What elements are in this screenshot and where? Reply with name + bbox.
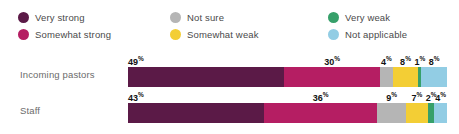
bar-segment xyxy=(421,67,447,87)
legend-item[interactable]: Very weak xyxy=(328,12,442,23)
chart-row-label: Staff xyxy=(20,105,40,116)
bar-area: 49%30%4%8%1%8% xyxy=(128,53,447,89)
bar-segment xyxy=(406,103,428,123)
chart-row-label: Incoming pastors xyxy=(20,69,95,80)
legend-item[interactable]: Not applicable xyxy=(328,29,442,40)
bar-segment xyxy=(380,67,393,87)
chart-row: Incoming pastors49%30%4%8%1%8% xyxy=(0,53,459,89)
bar-segment xyxy=(128,103,264,123)
legend-item[interactable]: Somewhat weak xyxy=(170,29,328,40)
bar-value-labels: 49%30%4%8%1%8% xyxy=(128,53,447,67)
legend-item-label: Not sure xyxy=(187,13,224,23)
bar-segment-value: 7% xyxy=(412,89,423,104)
legend-item-label: Somewhat strong xyxy=(35,30,111,40)
bar-segment xyxy=(264,103,378,123)
legend-dot-icon xyxy=(18,12,29,23)
stacked-bar xyxy=(128,67,447,87)
bar-segment xyxy=(128,67,284,87)
stacked-bar xyxy=(128,103,447,123)
legend-dot-icon xyxy=(170,29,181,40)
chart-legend: Very strongNot sureVery weakSomewhat str… xyxy=(18,9,442,43)
legend-item[interactable]: Somewhat strong xyxy=(18,29,170,40)
bar-segment-value: 8% xyxy=(429,53,440,68)
bar-segment-value: 4% xyxy=(435,89,446,104)
bar-segment-value: 49% xyxy=(128,53,144,68)
legend-dot-icon xyxy=(18,29,29,40)
legend-item[interactable]: Not sure xyxy=(170,12,328,23)
stacked-bar-chart: Incoming pastors49%30%4%8%1%8%Staff43%36… xyxy=(0,53,459,131)
legend-dot-icon xyxy=(170,12,181,23)
bar-segment-value: 4% xyxy=(381,53,392,68)
bar-segment-value: 9% xyxy=(386,89,397,104)
bar-segment-value: 30% xyxy=(324,53,340,68)
bar-segment xyxy=(434,103,447,123)
legend-item-label: Somewhat weak xyxy=(187,30,259,40)
legend-dot-icon xyxy=(328,29,339,40)
bar-segment xyxy=(393,67,419,87)
legend-item[interactable]: Very strong xyxy=(18,12,170,23)
bar-area: 43%36%9%7%2%4% xyxy=(128,89,447,125)
bar-segment-value: 36% xyxy=(313,89,329,104)
legend-item-label: Very strong xyxy=(35,13,85,23)
bar-segment-value: 8% xyxy=(400,53,411,68)
bar-value-labels: 43%36%9%7%2%4% xyxy=(128,89,447,103)
legend-item-label: Very weak xyxy=(345,13,390,23)
bar-segment-value: 1% xyxy=(414,53,425,68)
bar-segment-value: 43% xyxy=(128,89,144,104)
bar-segment xyxy=(284,67,380,87)
legend-dot-icon xyxy=(328,12,339,23)
legend-item-label: Not applicable xyxy=(345,30,407,40)
bar-segment xyxy=(377,103,405,123)
chart-row: Staff43%36%9%7%2%4% xyxy=(0,89,459,125)
